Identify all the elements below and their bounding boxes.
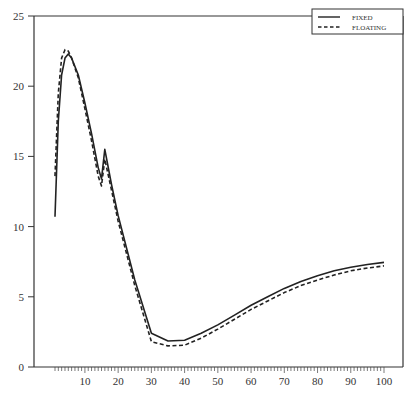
legend-label-fixed: FIXED xyxy=(352,14,373,22)
legend: FIXEDFLOATING xyxy=(312,9,403,34)
plot-frame xyxy=(34,16,403,367)
line-chart: 0510152025 102030405060708090100 FIXEDFL… xyxy=(0,0,411,394)
series-floating xyxy=(55,50,384,346)
y-tick-label: 25 xyxy=(13,10,25,22)
x-tick-label: 80 xyxy=(312,375,324,387)
y-tick-label: 15 xyxy=(13,150,25,162)
y-tick-label: 10 xyxy=(13,221,25,233)
x-tick-label: 30 xyxy=(146,375,158,387)
legend-label-floating: FLOATING xyxy=(352,24,386,32)
data-series xyxy=(55,50,384,346)
x-axis: 102030405060708090100 xyxy=(55,367,393,387)
y-tick-label: 0 xyxy=(19,361,25,373)
x-tick-label: 100 xyxy=(376,375,393,387)
y-tick-label: 20 xyxy=(13,80,25,92)
x-tick-label: 90 xyxy=(345,375,357,387)
y-axis: 0510152025 xyxy=(13,10,34,373)
x-tick-label: 20 xyxy=(113,375,125,387)
x-tick-label: 10 xyxy=(79,375,91,387)
x-tick-label: 50 xyxy=(212,375,224,387)
series-fixed xyxy=(55,54,384,341)
y-tick-label: 5 xyxy=(19,291,25,303)
x-tick-label: 70 xyxy=(279,375,291,387)
x-tick-label: 40 xyxy=(179,375,191,387)
x-tick-label: 60 xyxy=(246,375,258,387)
